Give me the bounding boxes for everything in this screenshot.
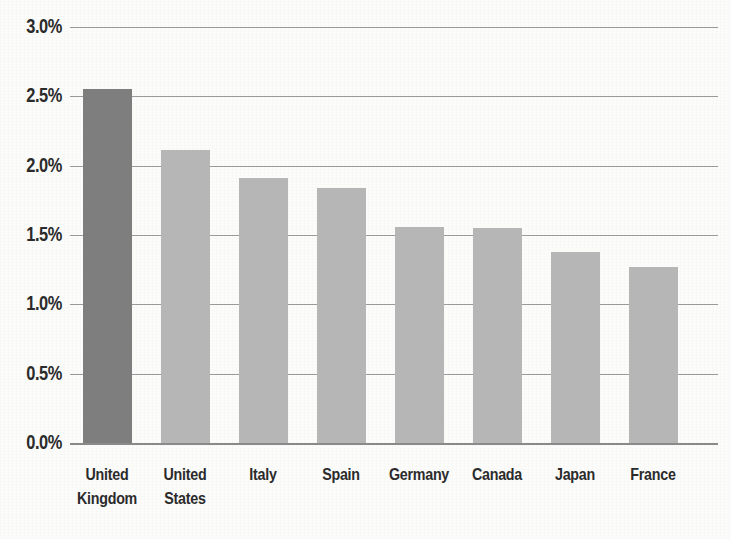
- xtick-label-germany: Germany: [380, 463, 457, 487]
- gridline-2-5: [70, 96, 718, 97]
- xtick-label-france: France: [614, 463, 691, 487]
- ytick-label-1-5: 1.5%: [11, 223, 62, 246]
- bar-canada[interactable]: [473, 228, 522, 443]
- bar-united-states[interactable]: [161, 150, 210, 443]
- gridline-3-0: [70, 27, 718, 28]
- axis-baseline: [70, 443, 718, 445]
- ytick-label-0-0: 0.0%: [11, 431, 62, 454]
- bar-japan[interactable]: [551, 252, 600, 443]
- bar-chart: 3.0% 2.5% 2.0% 1.5% 1.0% 0.5% 0.0% Unite…: [0, 0, 731, 539]
- xtick-label-united-kingdom: United Kingdom: [68, 463, 145, 511]
- xtick-label-spain: Spain: [302, 463, 379, 487]
- bar-france[interactable]: [629, 267, 678, 443]
- xtick-label-canada: Canada: [458, 463, 535, 487]
- xtick-label-japan: Japan: [536, 463, 613, 487]
- ytick-label-2-0: 2.0%: [11, 154, 62, 177]
- bar-spain[interactable]: [317, 188, 366, 443]
- ytick-label-1-0: 1.0%: [11, 292, 62, 315]
- bar-united-kingdom[interactable]: [83, 89, 132, 443]
- bar-italy[interactable]: [239, 178, 288, 443]
- xtick-label-united-states: United States: [146, 463, 223, 511]
- ytick-label-2-5: 2.5%: [11, 84, 62, 107]
- bar-germany[interactable]: [395, 227, 444, 443]
- xtick-label-italy: Italy: [224, 463, 301, 487]
- ytick-label-3-0: 3.0%: [11, 15, 62, 38]
- ytick-label-0-5: 0.5%: [11, 362, 62, 385]
